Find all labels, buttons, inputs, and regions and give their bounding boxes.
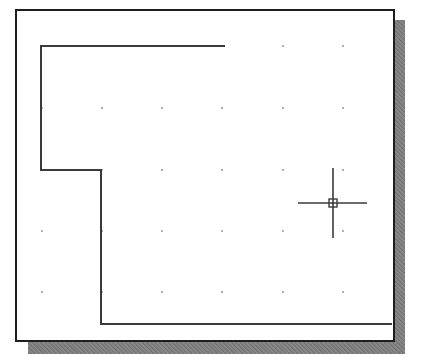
drawing-area[interactable]	[15, 9, 395, 342]
viewport-shadow-bottom	[28, 340, 405, 354]
cad-drawing-screen	[0, 0, 422, 360]
